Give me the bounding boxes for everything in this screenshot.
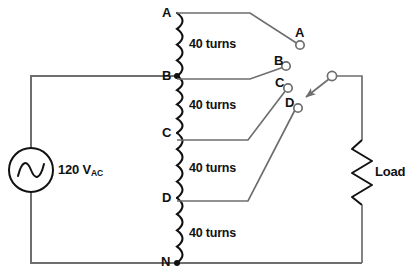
coil-segment-b-c [177,76,183,133]
terminal-label-d: D [285,96,294,109]
terminal-label-b: B [274,54,283,67]
junction-dot-tap-b [174,73,180,79]
coil-segment-d-n [177,198,183,263]
tap-label-d: D [162,191,171,204]
terminal-contact-c[interactable] [284,84,292,92]
coil-segment-c-d [177,133,183,198]
wire-tap-b-to-terminal-b [177,67,284,79]
wire-source-to-tap-b [31,76,177,148]
tap-label-a: A [162,6,171,19]
turns-label-d-n: 40 turns [189,227,236,240]
tap-label-b: B [162,69,171,82]
selector-switch-arm[interactable] [306,79,329,97]
source-voltage-value: 120 V [58,162,91,177]
terminal-label-c: C [275,76,284,89]
junction-dot-tap-n [174,260,180,266]
turns-label-b-c: 40 turns [189,99,236,112]
turns-label-a-b: 40 turns [189,38,236,51]
wire-switch-to-load [336,76,362,140]
wire-tap-d-to-terminal-d [177,108,296,201]
selector-switch-pivot[interactable] [327,71,336,80]
load-label: Load [375,165,405,178]
terminal-label-a: A [295,26,304,39]
terminal-contact-a[interactable] [296,41,304,49]
terminal-contact-d[interactable] [294,104,302,112]
circuit-diagram: A B C D N 40 turns 40 turns 40 turns 40 … [0,0,405,273]
tap-label-c: C [162,126,171,139]
load-resistor-symbol [352,140,372,205]
coil-segment-a-b [177,13,183,76]
source-voltage-label: 120 VAC [58,163,103,176]
turns-label-c-d: 40 turns [189,162,236,175]
tap-label-n: N [161,255,170,268]
source-voltage-subscript: AC [91,168,103,178]
